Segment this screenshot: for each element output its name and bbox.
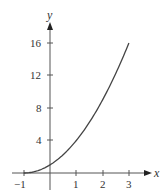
x-tick-label: 3 — [126, 178, 132, 190]
x-tick-label: 2 — [100, 178, 106, 190]
y-tick-label: 12 — [30, 69, 41, 81]
chart: x y −1 1 2 3 4 8 12 16 — [0, 0, 166, 196]
x-tick-label: 1 — [73, 178, 79, 190]
y-tick-label: 8 — [36, 102, 42, 114]
y-axis-arrow-icon — [47, 22, 53, 30]
x-axis-label: x — [153, 166, 160, 180]
y-tick-label: 4 — [36, 134, 42, 146]
y-tick-label: 16 — [30, 37, 42, 49]
x-axis-arrow-icon — [144, 170, 152, 176]
x-tick-label: −1 — [14, 178, 26, 190]
y-axis-label: y — [46, 8, 53, 22]
